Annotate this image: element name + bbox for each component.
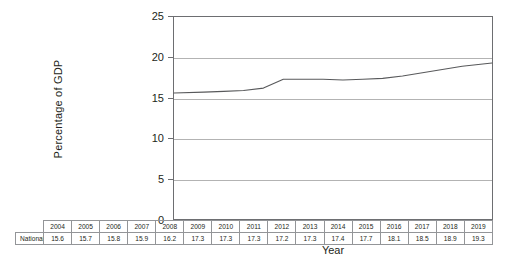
table-header-row: 2004200520062007200820092010201120122013…	[16, 221, 493, 233]
chart-figure: Percentage of GDP 0510152025 20042005200…	[0, 0, 509, 262]
table-year-header: 2013	[296, 221, 324, 233]
table-year-header: 2012	[268, 221, 296, 233]
table-year-header: 2008	[156, 221, 184, 233]
data-table: 2004200520062007200820092010201120122013…	[15, 220, 493, 245]
table-cell-value: 17.3	[296, 233, 324, 245]
table-cell-value: 16.2	[156, 233, 184, 245]
table-cell-value: 15.8	[100, 233, 128, 245]
table-year-header: 2010	[212, 221, 240, 233]
table-year-header: 2018	[436, 221, 464, 233]
y-tick-label: 15	[152, 92, 164, 104]
y-axis-title: Percentage of GDP	[52, 4, 64, 214]
x-axis-title: Year	[173, 244, 493, 256]
y-tick-label: 25	[152, 10, 164, 22]
plot-area	[173, 16, 493, 220]
table-cell-value: 15.9	[128, 233, 156, 245]
table-year-header: 2011	[240, 221, 268, 233]
table-cell-value: 17.7	[352, 233, 380, 245]
table-cell-value: 17.3	[212, 233, 240, 245]
table-cell-value: 18.9	[436, 233, 464, 245]
table-year-header: 2004	[44, 221, 72, 233]
line-series	[174, 17, 492, 219]
y-tick-label: 5	[158, 173, 164, 185]
table-cell-value: 15.6	[44, 233, 72, 245]
table-year-header: 2016	[380, 221, 408, 233]
table-year-header: 2015	[352, 221, 380, 233]
table-year-header: 2009	[184, 221, 212, 233]
table-year-header: 2019	[464, 221, 492, 233]
table-cell-value: 19.3	[464, 233, 492, 245]
table-corner-spacer	[16, 221, 44, 233]
y-tick-label: 20	[152, 51, 164, 63]
table-year-header: 2006	[100, 221, 128, 233]
table-cell-value: 18.1	[380, 233, 408, 245]
table-cell-value: 15.7	[72, 233, 100, 245]
table-row-label: National Health Expenditure as a Percent…	[16, 233, 44, 245]
series-line	[174, 63, 492, 93]
table-cell-value: 17.3	[184, 233, 212, 245]
y-tick-label: 10	[152, 132, 164, 144]
table-year-header: 2005	[72, 221, 100, 233]
table-year-header: 2007	[128, 221, 156, 233]
table-cell-value: 17.2	[268, 233, 296, 245]
table-year-header: 2014	[324, 221, 352, 233]
table-year-header: 2017	[408, 221, 436, 233]
table-cell-value: 17.3	[240, 233, 268, 245]
table-cell-value: 18.5	[408, 233, 436, 245]
table-row: National Health Expenditure as a Percent…	[16, 233, 493, 245]
table-cell-value: 17.4	[324, 233, 352, 245]
